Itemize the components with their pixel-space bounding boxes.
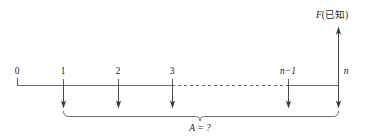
future-value-paren-close: ): [345, 10, 348, 21]
series-amount-label: A = ?: [188, 123, 211, 133]
payment-arrow-period-1: [61, 85, 66, 109]
period-label-n: n: [344, 66, 349, 76]
period-label-n-minus-1: n−1: [280, 66, 296, 76]
series-brace-path: [64, 111, 339, 121]
payment-arrow-group: [61, 85, 341, 109]
period-label-3: 3: [170, 66, 175, 76]
payment-arrow-period-n-minus-1: [286, 85, 291, 109]
future-value-arrow: [336, 27, 341, 86]
cash-flow-diagram: 0 1 2 3 n−1 n: [0, 0, 367, 137]
period-label-2: 2: [116, 66, 121, 76]
payment-arrow-period-n: [336, 85, 341, 109]
period-label-0: 0: [15, 66, 20, 76]
future-value-label: F(已知): [315, 9, 348, 21]
time-axis-group: [17, 78, 339, 86]
future-value-note: 已知: [325, 9, 345, 20]
period-label-group: 0 1 2 3 n−1 n: [15, 66, 349, 76]
period-label-1: 1: [61, 66, 66, 76]
payment-arrow-period-2: [116, 85, 121, 109]
figure-canvas: 0 1 2 3 n−1 n: [0, 0, 367, 137]
series-brace: [64, 111, 339, 121]
payment-arrow-period-3: [170, 85, 175, 109]
